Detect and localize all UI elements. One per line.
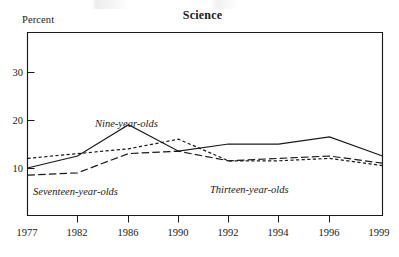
x-tick-label-1990: 1990 bbox=[168, 227, 189, 238]
x-axis-tick-labels: 1977 1982 1986 1990 1992 1994 1996 1999 bbox=[17, 227, 390, 238]
series-label-nine-year-olds: Nine-year-olds bbox=[94, 118, 158, 129]
x-tick-label-1982: 1982 bbox=[67, 227, 88, 238]
x-tick-label-1996: 1996 bbox=[319, 227, 340, 238]
y-axis-tick-labels: 30 20 10 bbox=[13, 67, 24, 174]
series-label-seventeen-year-olds: Seventeen-year-olds bbox=[33, 186, 118, 197]
x-tick-label-1999: 1999 bbox=[369, 227, 390, 238]
x-axis-ticks bbox=[78, 216, 330, 223]
series-label-thirteen-year-olds: Thirteen-year-olds bbox=[210, 184, 289, 195]
y-tick-label-20: 20 bbox=[13, 115, 24, 126]
chart-plot-area: 30 20 10 1977 1982 1986 1990 1992 1994 1… bbox=[0, 0, 399, 257]
series-line-seventeen-year-olds bbox=[28, 151, 383, 175]
y-tick-label-10: 10 bbox=[13, 163, 24, 174]
y-tick-label-30: 30 bbox=[13, 67, 24, 78]
x-tick-label-1994: 1994 bbox=[268, 227, 290, 238]
x-tick-label-1977: 1977 bbox=[17, 227, 38, 238]
science-line-chart-figure: Percent Science 30 20 10 1977 1982 bbox=[0, 0, 399, 257]
x-tick-label-1992: 1992 bbox=[218, 227, 239, 238]
y-axis-ticks bbox=[28, 73, 35, 169]
series-line-thirteen-year-olds bbox=[28, 139, 383, 165]
series-line-nine-year-olds bbox=[28, 125, 383, 168]
x-tick-label-1986: 1986 bbox=[118, 227, 139, 238]
